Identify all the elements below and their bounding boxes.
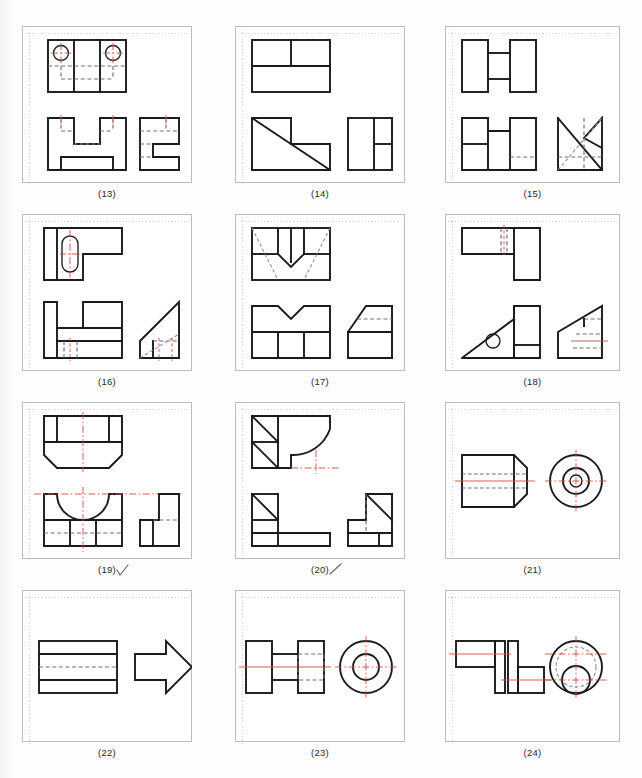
check-mark-icon-19	[115, 564, 131, 578]
exercise-panel-13[interactable]: (13)	[22, 26, 192, 208]
exercise-panel-17[interactable]: (17)	[235, 214, 405, 396]
page-footer	[0, 762, 642, 778]
drawing-17	[235, 214, 405, 371]
drawing-14	[235, 26, 405, 183]
panel-caption: (20)	[235, 564, 405, 575]
exercise-panel-23[interactable]: (23)	[235, 590, 405, 770]
drawing-18	[445, 214, 620, 371]
exercise-panel-24[interactable]: (24)	[445, 590, 620, 770]
exercise-panel-14[interactable]: (14)	[235, 26, 405, 208]
panel-caption: (14)	[235, 188, 405, 199]
check-mark-icon-20	[328, 563, 344, 577]
exercise-panel-21[interactable]: (21)	[445, 402, 620, 584]
panel-caption: (24)	[445, 747, 620, 758]
drawing-16	[22, 214, 192, 371]
panel-caption: (16)	[22, 376, 192, 387]
drawing-20	[235, 402, 405, 559]
panel-caption: (13)	[22, 188, 192, 199]
exercise-panel-15[interactable]: (15)	[445, 26, 620, 208]
panel-caption: (22)	[22, 747, 192, 758]
exercise-panel-16[interactable]: (16)	[22, 214, 192, 396]
drawing-15	[445, 26, 620, 183]
drawing-23	[235, 590, 405, 742]
panel-caption: (21)	[445, 564, 620, 575]
panel-caption: (18)	[445, 376, 620, 387]
exercise-panel-18[interactable]: (18)	[445, 214, 620, 396]
exercise-panel-22[interactable]: (22)	[22, 590, 192, 770]
drawing-13	[22, 26, 192, 183]
exercise-panel-20[interactable]: (20)	[235, 402, 405, 584]
page-header	[0, 0, 642, 12]
drawing-22	[22, 590, 192, 742]
drawing-21	[445, 402, 620, 559]
exercise-grid: (13) (14)	[0, 14, 642, 762]
panel-caption: (17)	[235, 376, 405, 387]
drawing-24	[445, 590, 620, 742]
panel-caption: (15)	[445, 188, 620, 199]
drawing-19	[22, 402, 192, 559]
panel-caption: (23)	[235, 747, 405, 758]
exercise-panel-19[interactable]: (19)	[22, 402, 192, 584]
panel-caption: (19)	[22, 564, 192, 575]
page-canvas: (13) (14)	[0, 0, 642, 778]
